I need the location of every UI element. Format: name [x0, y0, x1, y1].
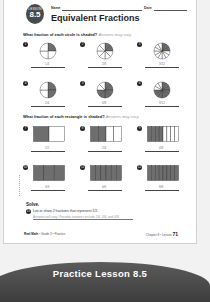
fraction-circle	[153, 81, 171, 99]
circle-item: 56/8	[78, 79, 128, 117]
answer-fraction: 3/12	[159, 62, 165, 66]
item-number-badge: 7	[23, 126, 28, 131]
date-field[interactable]	[154, 10, 187, 11]
answer-line[interactable]	[145, 151, 179, 152]
fraction-circle	[39, 42, 57, 60]
fraction-circle	[153, 42, 171, 60]
answer-line[interactable]	[145, 190, 179, 191]
answer-line[interactable]	[145, 67, 179, 68]
item-number-badge: 11	[80, 165, 85, 170]
item-number-badge: 9	[137, 126, 142, 131]
item-number-badge: 6	[137, 81, 142, 86]
answer-fraction: 4/8	[159, 146, 163, 150]
section1-prompt: What fraction of each circle is shaded? …	[23, 32, 132, 37]
rect-item: 71/2	[21, 124, 71, 162]
fraction-rectangle	[33, 126, 65, 142]
item-number-badge: 1	[23, 42, 28, 47]
item-number-badge: 5	[80, 81, 85, 86]
circle-item: 22/8	[78, 40, 128, 78]
answer-line[interactable]	[31, 67, 65, 68]
fraction-rectangle	[147, 165, 179, 181]
fraction-circle	[96, 81, 114, 99]
solve-question-text: List or show 2 fractions that represent …	[33, 209, 98, 213]
answer-line[interactable]	[31, 190, 65, 191]
item-number-badge: 10	[23, 165, 28, 170]
section1-prompt-text: What fraction of each circle is shaded?	[23, 32, 97, 37]
fraction-rectangle	[33, 165, 65, 181]
worksheet-title: Equivalent Fractions	[51, 13, 140, 23]
circle-item: 11/4	[21, 40, 71, 78]
fraction-rectangle	[147, 126, 179, 142]
item-number-badge: 12	[137, 165, 142, 170]
lesson-number: 8.5	[26, 11, 44, 19]
footer-chapter: Chapter 8 • Lesson	[146, 233, 172, 237]
circle-item: 69/12	[135, 79, 185, 117]
answer-fraction: 6/8	[102, 101, 106, 105]
worksheet-page: LESSON 8.5 Name Date Equivalent Fraction…	[3, 0, 197, 244]
rect-item: 94/8	[135, 124, 185, 162]
practice-banner: Practice Lesson 8.5	[0, 262, 210, 302]
answer-line[interactable]	[88, 106, 122, 107]
name-label: Name	[51, 6, 61, 10]
answer-line[interactable]	[88, 151, 122, 152]
page-number: 71	[172, 231, 178, 237]
rect-item: 82/4	[78, 124, 128, 162]
footer-left-text: • Grade 3 • Practice	[38, 232, 65, 236]
section1-hint: Answers may vary.	[98, 32, 132, 37]
answer-line[interactable]	[88, 190, 122, 191]
banner-title: Practice Lesson 8.5	[0, 268, 210, 279]
section2-prompt: What fraction of each rectangle is shade…	[23, 114, 139, 119]
rect-item: 103/3	[21, 163, 71, 201]
answer-fraction: 9/12	[159, 101, 165, 105]
name-field[interactable]	[62, 10, 142, 11]
item-number-badge: 13	[26, 209, 31, 214]
solve-answer[interactable]: Answers will vary. Possible answers incl…	[33, 215, 133, 220]
item-number-badge: 2	[80, 42, 85, 47]
margin-marker	[19, 175, 20, 197]
answer-line[interactable]	[88, 67, 122, 68]
circle-item: 42/4	[21, 79, 71, 117]
solve-heading: Solve.	[26, 202, 39, 207]
solve-question: 13List or show 2 fractions that represen…	[26, 209, 98, 214]
answer-line[interactable]	[145, 106, 179, 107]
rect-item: 128/8	[135, 163, 185, 201]
footer-right: Chapter 8 • Lesson 71	[146, 231, 178, 237]
footer-brand: Real Math	[24, 232, 38, 236]
answer-fraction: 8/8	[159, 185, 163, 189]
rect-item: 116/6	[78, 163, 128, 201]
answer-fraction: 3/3	[45, 185, 49, 189]
date-label: Date	[144, 6, 152, 10]
answer-fraction: 2/8	[102, 62, 106, 66]
item-number-badge: 3	[137, 42, 142, 47]
section2-hint: Answers may vary.	[106, 114, 140, 119]
answer-fraction: 2/4	[45, 101, 49, 105]
answer-fraction: 1/4	[45, 62, 49, 66]
answer-line[interactable]	[31, 151, 65, 152]
footer-left: Real Math • Grade 3 • Practice	[24, 232, 65, 236]
fraction-circle	[39, 81, 57, 99]
fraction-circle	[96, 42, 114, 60]
fraction-rectangle	[90, 126, 122, 142]
circle-item: 33/12	[135, 40, 185, 78]
section2-prompt-text: What fraction of each rectangle is shade…	[23, 114, 105, 119]
fraction-rectangle	[90, 165, 122, 181]
item-number-badge: 8	[80, 126, 85, 131]
answer-line[interactable]	[31, 106, 65, 107]
answer-fraction: 2/4	[102, 146, 106, 150]
item-number-badge: 4	[23, 81, 28, 86]
answer-fraction: 1/2	[45, 146, 49, 150]
lesson-badge: LESSON 8.5	[26, 4, 44, 24]
answer-fraction: 6/6	[102, 185, 106, 189]
